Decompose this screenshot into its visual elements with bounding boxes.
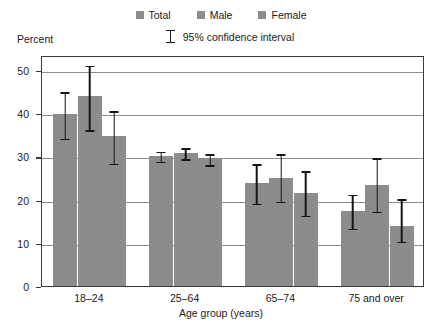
error-bar-icon [166, 30, 175, 43]
error-bar-total-2 [252, 164, 261, 205]
bar-group [234, 57, 330, 286]
bar-group [138, 57, 234, 286]
bar-group [42, 57, 138, 286]
bar-slot [149, 57, 173, 286]
error-bar-male-3 [373, 158, 382, 213]
bar-groups [42, 57, 423, 286]
error-bar-total-0 [61, 92, 70, 140]
legend-label-male: Male [210, 10, 233, 21]
y-tick-mark-0 [36, 287, 41, 288]
y-tick-label-0: 0 [7, 281, 29, 293]
bar-slot [53, 57, 77, 286]
error-bar-female-1 [206, 154, 215, 167]
y-tick-label-10: 10 [7, 238, 29, 250]
bar-female-1 [198, 158, 222, 286]
y-axis-ticks [36, 0, 41, 331]
legend-swatch-male [197, 11, 205, 19]
y-axis: 01020304050 [0, 0, 41, 331]
y-tick-mark-10 [36, 244, 41, 245]
error-bar-male-2 [277, 154, 286, 203]
error-bar-total-1 [157, 152, 166, 164]
bar-slot [390, 57, 414, 286]
bar-slot [174, 57, 198, 286]
error-bar-total-3 [348, 195, 357, 230]
x-axis-title: Age group (years) [0, 307, 442, 319]
bar-slot [245, 57, 269, 286]
error-bar-male-0 [85, 66, 94, 132]
bar-slot [365, 57, 389, 286]
y-tick-mark-20 [36, 201, 41, 202]
x-tick-label-0: 18–24 [74, 292, 103, 304]
plot-area [41, 56, 424, 287]
y-tick-mark-50 [36, 71, 41, 72]
confidence-interval-legend: 95% confidence interval [0, 30, 442, 43]
legend-swatch-total [136, 11, 144, 19]
confidence-interval-label: 95% confidence interval [183, 31, 295, 43]
error-bar-female-3 [397, 199, 406, 243]
legend-label-total: Total [149, 10, 171, 21]
y-tick-label-20: 20 [7, 195, 29, 207]
chart-legend: Total Male Female [0, 10, 442, 21]
legend-item-total: Total [136, 10, 171, 21]
y-tick-label-50: 50 [7, 65, 29, 77]
y-tick-label-40: 40 [7, 108, 29, 120]
bar-male-1 [174, 153, 198, 286]
bar-slot [341, 57, 365, 286]
bar-group [329, 57, 425, 286]
bar-slot [78, 57, 102, 286]
legend-label-female: Female [271, 10, 306, 21]
legend-swatch-female [258, 11, 266, 19]
legend-item-female: Female [258, 10, 306, 21]
bar-slot [269, 57, 293, 286]
error-bar-female-0 [110, 111, 119, 165]
x-tick-label-1: 25–64 [170, 292, 199, 304]
y-tick-mark-30 [36, 157, 41, 158]
y-tick-mark-40 [36, 114, 41, 115]
bar-slot [102, 57, 126, 286]
x-tick-label-3: 75 and over [348, 292, 403, 304]
bar-slot [294, 57, 318, 286]
bar-slot [198, 57, 222, 286]
y-tick-label-30: 30 [7, 151, 29, 163]
error-bar-male-1 [181, 148, 190, 161]
bar-total-1 [149, 156, 173, 286]
x-tick-label-2: 65–74 [266, 292, 295, 304]
error-bar-female-2 [301, 171, 310, 217]
legend-item-male: Male [197, 10, 233, 21]
